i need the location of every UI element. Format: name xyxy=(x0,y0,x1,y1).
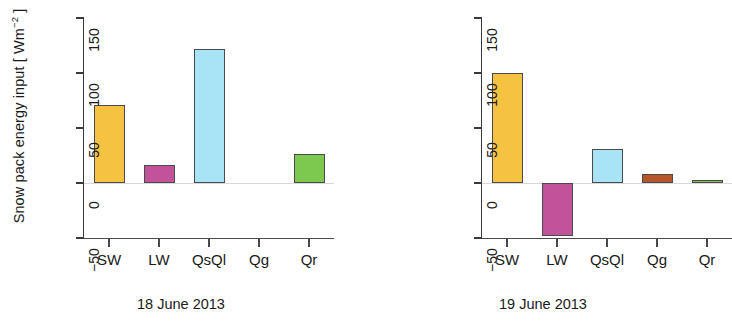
plot-area-right: SWLWQsQlQgQr −50050100150 xyxy=(482,18,732,238)
bar-qr xyxy=(294,154,325,183)
x-axis-right: SWLWQsQlQgQr xyxy=(482,238,732,248)
x-axis-tick xyxy=(656,238,657,247)
x-axis-tick xyxy=(258,238,259,247)
panel-19-june-2013: SWLWQsQlQgQr −50050100150 19 June 2013 xyxy=(362,0,724,325)
panel-caption-right: 19 June 2013 xyxy=(362,296,724,312)
y-axis-tick-label-text: −50 xyxy=(86,237,102,283)
x-axis-tick xyxy=(158,238,159,247)
bar-group-right xyxy=(482,18,732,238)
y-axis-title-main: Snow pack energy input [ Wm xyxy=(11,28,27,223)
bar-qr xyxy=(692,180,723,183)
x-axis-tick xyxy=(506,238,507,247)
bar-group-left xyxy=(84,18,334,238)
y-axis-tick xyxy=(76,17,84,18)
y-axis-tick-label-text: 150 xyxy=(86,17,102,63)
bar-lw xyxy=(542,183,573,236)
y-axis-title: Snow pack energy input [ Wm−2 ] xyxy=(11,1,27,231)
panel-caption-left: 18 June 2013 xyxy=(0,296,362,312)
x-axis-tick xyxy=(706,238,707,247)
x-axis-tick xyxy=(208,238,209,247)
bar-qsql xyxy=(194,49,225,183)
y-axis-tick-label-text: 100 xyxy=(484,72,500,118)
y-axis-tick xyxy=(76,237,84,238)
y-axis-tick xyxy=(76,72,84,73)
bar-qg xyxy=(642,174,673,183)
y-axis-tick xyxy=(76,127,84,128)
x-axis-tick xyxy=(308,238,309,247)
x-axis-tick-label-qg: Qg xyxy=(249,251,269,268)
x-axis-tick-label-qr: Qr xyxy=(301,251,318,268)
y-axis-tick xyxy=(474,17,482,18)
x-axis-tick-label-lw: LW xyxy=(148,251,169,268)
y-axis-tick-label-text: 100 xyxy=(86,72,102,118)
x-axis-tick xyxy=(606,238,607,247)
x-axis-tick xyxy=(556,238,557,247)
x-axis-tick-label-qr: Qr xyxy=(699,251,716,268)
y-axis-tick xyxy=(474,127,482,128)
y-axis-tick-label-text: 50 xyxy=(484,127,500,173)
y-axis-tick-label-text: 0 xyxy=(86,182,102,228)
bar-qsql xyxy=(592,149,623,183)
x-axis-tick-label-qsql: QsQl xyxy=(192,251,226,268)
y-axis-title-tail: ] xyxy=(11,9,27,17)
x-axis-tick-label-qg: Qg xyxy=(647,251,667,268)
y-axis-tick-label-text: 150 xyxy=(484,17,500,63)
bar-lw xyxy=(144,165,175,183)
x-axis-left: SWLWQsQlQgQr xyxy=(84,238,334,248)
y-axis-tick-label-text: 0 xyxy=(484,182,500,228)
y-axis-tick xyxy=(474,237,482,238)
panel-18-june-2013: Snow pack energy input [ Wm−2 ] SWLWQsQl… xyxy=(0,0,362,325)
y-axis-tick-label-text: 50 xyxy=(86,127,102,173)
y-axis-tick-label-text: −50 xyxy=(484,237,500,283)
y-axis-tick xyxy=(474,182,482,183)
y-axis-title-exponent: −2 xyxy=(9,17,20,28)
x-axis-tick xyxy=(108,238,109,247)
y-axis-tick xyxy=(474,72,482,73)
x-axis-tick-label-lw: LW xyxy=(546,251,567,268)
x-axis-tick-label-qsql: QsQl xyxy=(590,251,624,268)
plot-area-left: SWLWQsQlQgQr −50050100150 xyxy=(84,18,334,238)
y-axis-tick xyxy=(76,182,84,183)
